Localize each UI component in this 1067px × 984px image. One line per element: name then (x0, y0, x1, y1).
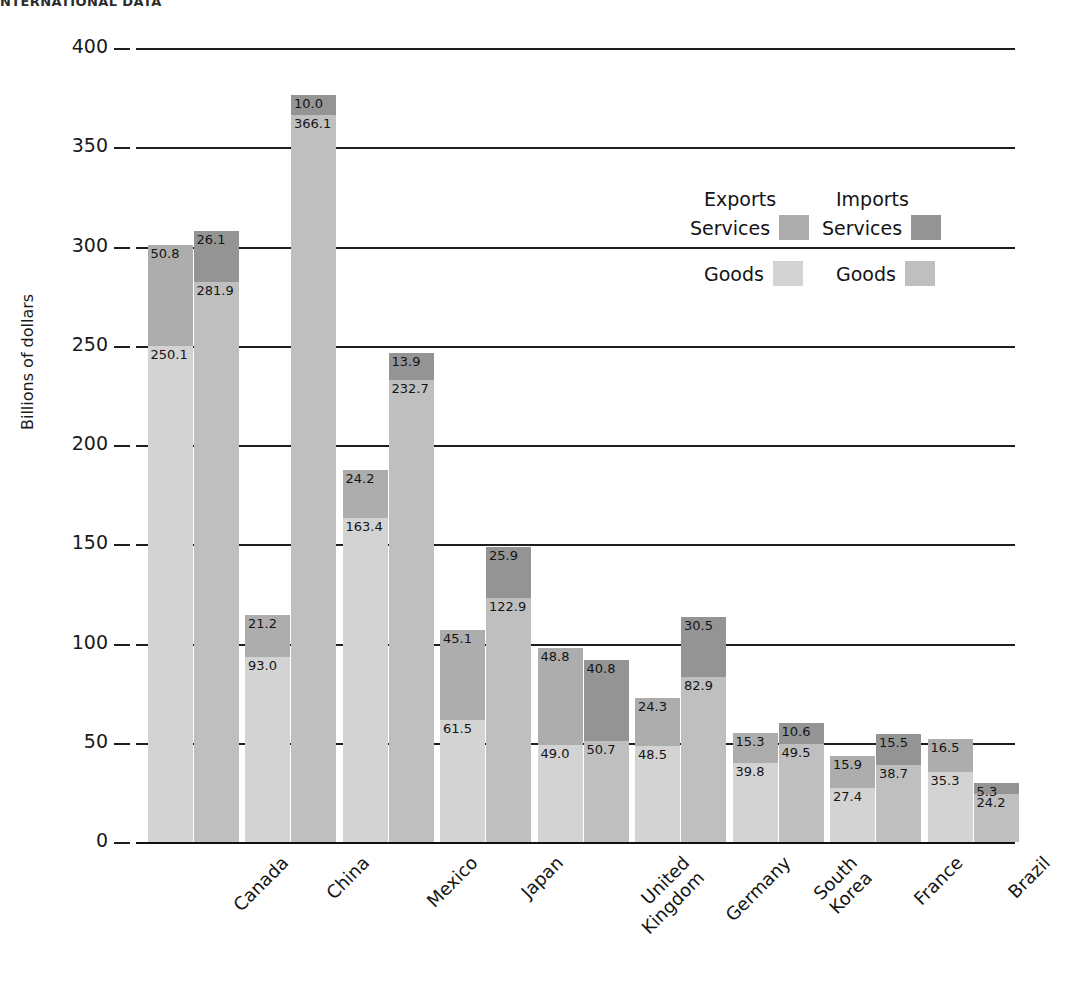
segment-goods[interactable]: 49.0 (538, 745, 583, 842)
bar-imports[interactable]: 122.925.9 (486, 547, 531, 842)
segment-services[interactable]: 10.0 (291, 95, 336, 115)
y-tick-mark (114, 445, 130, 447)
segment-services[interactable]: 24.2 (343, 470, 388, 518)
legend-label-exports-services: Services (690, 217, 770, 239)
segment-value-label: 50.8 (151, 247, 180, 261)
bar-imports[interactable]: 49.510.6 (779, 723, 824, 842)
segment-goods[interactable]: 232.7 (389, 380, 434, 842)
legend-item-exports-goods[interactable]: Goods (704, 261, 803, 286)
segment-value-label: 25.9 (489, 549, 518, 563)
y-tick-label: 400 (60, 35, 108, 57)
x-tick-label-line: China (322, 852, 373, 903)
bar-imports[interactable]: 50.740.8 (584, 660, 629, 842)
bar-group: 250.150.8281.926.1 (148, 48, 239, 842)
x-tick-label-line: Mexico (422, 852, 481, 911)
segment-value-label: 366.1 (294, 117, 331, 131)
segment-value-label: 49.5 (782, 746, 811, 760)
segment-goods[interactable]: 35.3 (928, 772, 973, 842)
bar-exports[interactable]: 250.150.8 (148, 245, 193, 842)
segment-goods[interactable]: 82.9 (681, 677, 726, 842)
segment-value-label: 163.4 (346, 520, 383, 534)
segment-goods[interactable]: 366.1 (291, 115, 336, 842)
y-tick-label: 0 (60, 829, 108, 851)
legend-item-imports-services[interactable]: Services (822, 215, 941, 240)
legend-item-exports-services[interactable]: Services (690, 215, 809, 240)
bar-group: 27.415.938.715.5 (830, 48, 921, 842)
bar-imports[interactable]: 232.713.9 (389, 353, 434, 843)
x-axis-baseline (136, 842, 1015, 844)
segment-value-label: 45.1 (443, 632, 472, 646)
x-tick-label: Germany (721, 852, 794, 925)
legend-swatch-imports-goods (905, 261, 935, 286)
legend-swatch-exports-goods (773, 261, 803, 286)
segment-value-label: 122.9 (489, 600, 526, 614)
segment-services[interactable]: 25.9 (486, 547, 531, 598)
y-tick-mark (114, 346, 130, 348)
segment-goods[interactable]: 49.5 (779, 744, 824, 842)
bar-imports[interactable]: 24.25.3 (974, 783, 1019, 842)
segment-services[interactable]: 45.1 (440, 630, 485, 720)
segment-value-label: 15.9 (833, 758, 862, 772)
segment-services[interactable]: 15.9 (830, 756, 875, 788)
segment-goods[interactable]: 38.7 (876, 765, 921, 842)
trade-bar-chart: Billions of dollars 05010015020025030035… (0, 0, 1067, 984)
bar-group: 35.316.524.25.3 (928, 48, 1019, 842)
bar-exports[interactable]: 27.415.9 (830, 756, 875, 842)
bar-exports[interactable]: 39.815.3 (733, 733, 778, 842)
segment-services[interactable]: 10.6 (779, 723, 824, 744)
segment-services[interactable]: 30.5 (681, 617, 726, 678)
segment-value-label: 10.6 (782, 725, 811, 739)
segment-services[interactable]: 26.1 (194, 231, 239, 283)
y-axis-title: Billions of dollars (18, 294, 37, 430)
legend-label-imports-services: Services (822, 217, 902, 239)
y-tick-mark (114, 842, 130, 844)
segment-services[interactable]: 15.3 (733, 733, 778, 763)
bar-group: 163.424.2232.713.9 (343, 48, 434, 842)
segment-goods[interactable]: 163.4 (343, 518, 388, 842)
legend-item-imports-goods[interactable]: Goods (836, 261, 935, 286)
x-tick-label: Japan (516, 852, 566, 902)
segment-value-label: 250.1 (151, 348, 188, 362)
segment-goods[interactable]: 93.0 (245, 657, 290, 842)
x-tick-label: Mexico (422, 852, 481, 911)
bar-group: 49.048.850.740.8 (538, 48, 629, 842)
segment-services[interactable]: 21.2 (245, 615, 290, 657)
bar-imports[interactable]: 82.930.5 (681, 617, 726, 842)
segment-services[interactable]: 50.8 (148, 245, 193, 346)
bar-exports[interactable]: 49.048.8 (538, 648, 583, 842)
segment-value-label: 49.0 (541, 747, 570, 761)
segment-services[interactable]: 15.5 (876, 734, 921, 765)
legend-swatch-imports-services (911, 215, 941, 240)
segment-value-label: 38.7 (879, 767, 908, 781)
segment-goods[interactable]: 61.5 (440, 720, 485, 842)
segment-services[interactable]: 16.5 (928, 739, 973, 772)
bar-exports[interactable]: 93.021.2 (245, 615, 290, 842)
segment-value-label: 35.3 (931, 774, 960, 788)
bar-imports[interactable]: 281.926.1 (194, 231, 239, 842)
bar-exports[interactable]: 35.316.5 (928, 739, 973, 842)
segment-services[interactable]: 48.8 (538, 648, 583, 745)
segment-goods[interactable]: 50.7 (584, 741, 629, 842)
segment-goods[interactable]: 281.9 (194, 282, 239, 842)
segment-services[interactable]: 24.3 (635, 698, 680, 746)
y-tick-label: 150 (60, 531, 108, 553)
segment-goods[interactable]: 250.1 (148, 346, 193, 842)
y-tick-label: 350 (60, 134, 108, 156)
segment-value-label: 27.4 (833, 790, 862, 804)
bar-imports[interactable]: 38.715.5 (876, 734, 921, 842)
bar-group: 93.021.2366.110.0 (245, 48, 336, 842)
segment-goods[interactable]: 39.8 (733, 763, 778, 842)
segment-value-label: 21.2 (248, 617, 277, 631)
bar-exports[interactable]: 61.545.1 (440, 630, 485, 842)
segment-services[interactable]: 13.9 (389, 353, 434, 381)
segment-services[interactable]: 40.8 (584, 660, 629, 741)
segment-value-label: 40.8 (587, 662, 616, 676)
bar-exports[interactable]: 48.524.3 (635, 698, 680, 843)
segment-goods[interactable]: 27.4 (830, 788, 875, 842)
segment-goods[interactable]: 122.9 (486, 598, 531, 842)
segment-goods[interactable]: 48.5 (635, 746, 680, 842)
segment-services[interactable]: 5.3 (974, 783, 1019, 794)
bar-imports[interactable]: 366.110.0 (291, 95, 336, 842)
bar-exports[interactable]: 163.424.2 (343, 470, 388, 842)
segment-goods[interactable]: 24.2 (974, 794, 1019, 842)
